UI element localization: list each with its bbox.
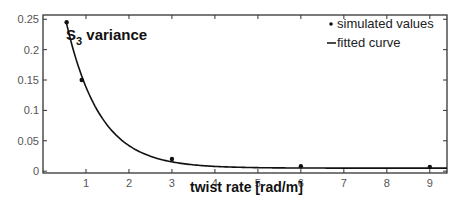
legend-label-fitted: fitted curve [337, 35, 401, 50]
chart-annotation: S3 variance [66, 26, 147, 47]
y-tick-label: 0.05 [18, 135, 39, 147]
y-tick-label: 0.15 [18, 74, 39, 86]
data-point [299, 164, 303, 168]
x-tick-label: 1 [83, 177, 89, 189]
x-tick-label: 7 [341, 177, 347, 189]
x-axis-title: twist rate [rad/m] [190, 179, 303, 195]
y-tick-label: 0.25 [18, 13, 39, 25]
legend-label-simulated: simulated values [337, 16, 434, 31]
legend: simulated values fitted curve [327, 16, 434, 50]
data-point [79, 78, 83, 82]
legend-marker-simulated [329, 22, 333, 26]
x-tick-label: 2 [126, 177, 132, 189]
x-tick-label: 3 [169, 177, 175, 189]
x-tick-label: 8 [384, 177, 390, 189]
y-tick-label: 0 [33, 165, 39, 177]
data-point [428, 165, 432, 169]
y-tick-label: 0.2 [24, 44, 39, 56]
y-tick-label: 0.1 [24, 104, 39, 116]
data-point [170, 157, 174, 161]
chart: 123456789 00.050.10.150.20.25 S3 varianc… [0, 0, 454, 207]
x-tick-label: 9 [427, 177, 433, 189]
data-point [64, 20, 68, 24]
